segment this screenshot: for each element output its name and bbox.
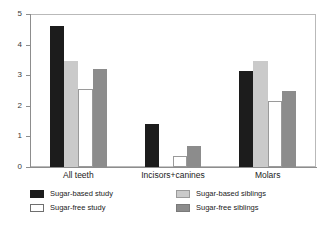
y-axis-tick	[26, 75, 30, 76]
bar	[78, 89, 92, 167]
bar	[159, 166, 173, 167]
legend-swatch-icon	[30, 190, 44, 198]
bar-group	[239, 14, 296, 167]
y-axis-tick-label: 4	[0, 41, 22, 49]
legend-label: Sugar-based study	[50, 190, 113, 198]
legend: Sugar-based studySugar-based siblingsSug…	[30, 189, 320, 221]
y-axis-tick-label: 3	[0, 71, 22, 79]
legend-label: Sugar-based siblings	[196, 190, 266, 198]
legend-item: Sugar-based siblings	[176, 189, 266, 199]
legend-swatch-icon	[176, 204, 190, 212]
y-axis-tick	[26, 106, 30, 107]
y-axis-tick	[26, 14, 30, 15]
x-axis-tick-label: All teeth	[63, 170, 94, 180]
legend-label: Sugar-free siblings	[196, 204, 259, 212]
bar	[268, 101, 282, 167]
legend-label: Sugar-free study	[50, 204, 105, 212]
bar-group	[145, 14, 202, 167]
bar	[64, 61, 78, 167]
bars-layer	[31, 14, 316, 167]
legend-item: Sugar-based study	[30, 189, 113, 199]
legend-swatch-icon	[30, 204, 44, 212]
y-axis-tick-label: 2	[0, 102, 22, 110]
bar	[187, 146, 201, 167]
y-axis-tick-label: 5	[0, 10, 22, 18]
x-axis-line	[30, 167, 317, 168]
x-axis-tick-label: Incisors+canines	[141, 170, 205, 180]
legend-item: Sugar-free siblings	[176, 203, 259, 213]
bar	[93, 69, 107, 167]
bar-group	[50, 14, 107, 167]
y-axis-tick	[26, 45, 30, 46]
bar	[282, 91, 296, 168]
bar	[239, 71, 253, 167]
y-axis-tick-label: 1	[0, 132, 22, 140]
x-axis-tick-label: Molars	[255, 170, 281, 180]
y-axis-tick-label: 0	[0, 163, 22, 171]
y-axis-tick	[26, 136, 30, 137]
legend-item: Sugar-free study	[30, 203, 105, 213]
bar	[173, 156, 187, 167]
legend-swatch-icon	[176, 190, 190, 198]
bar	[50, 26, 64, 167]
bar	[253, 61, 267, 167]
bar-chart: 012345 All teethIncisors+caninesMolars S…	[0, 0, 329, 226]
bar	[145, 124, 159, 167]
y-axis-tick	[26, 167, 30, 168]
